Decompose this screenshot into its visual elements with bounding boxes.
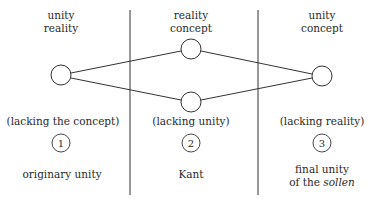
- col1-top-label: unity reality: [44, 9, 78, 35]
- middle-bottom-node: [181, 92, 201, 112]
- col3-top-label: unity concept: [301, 9, 343, 35]
- left-node: [51, 65, 71, 85]
- middle-top-node: [181, 39, 201, 59]
- col3-bottom-line2-prefix: of the: [289, 176, 323, 188]
- edge-top-to-right: [201, 51, 312, 74]
- edge-left-to-top: [71, 51, 181, 73]
- col2-top-label: reality concept: [170, 9, 212, 35]
- diagram-canvas: 1 2 3 unity reality (lacking the concept…: [0, 0, 369, 204]
- number-2: 2: [188, 138, 194, 149]
- col3-top-line1: unity: [301, 9, 343, 22]
- col3-bottom-line2-italic: sollen: [323, 176, 354, 188]
- col3-bottom-label: final unity of the sollen: [289, 163, 355, 189]
- col1-top-line1: unity: [44, 9, 78, 22]
- number-3: 3: [319, 138, 325, 149]
- edge-bottom-to-right: [201, 78, 312, 100]
- col1-top-line2: reality: [44, 22, 78, 35]
- col1-bottom-label: originary unity: [22, 168, 101, 181]
- right-node: [312, 66, 332, 86]
- number-1: 1: [58, 138, 64, 149]
- col3-bottom-line2: of the sollen: [289, 176, 355, 189]
- col1-lacking-label: (lacking the concept): [7, 115, 120, 128]
- col3-bottom-line1: final unity: [289, 163, 355, 176]
- col2-lacking-label: (lacking unity): [152, 115, 229, 128]
- col2-top-line1: reality: [170, 9, 212, 22]
- edge-left-to-bottom: [71, 78, 181, 100]
- col3-top-line2: concept: [301, 22, 343, 35]
- col2-bottom-label: Kant: [178, 168, 203, 181]
- col3-lacking-label: (lacking reality): [280, 115, 365, 128]
- col2-top-line2: concept: [170, 22, 212, 35]
